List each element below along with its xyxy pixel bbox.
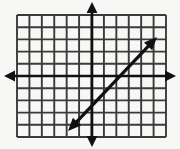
graph-figure [0,0,180,149]
coordinate-plane [0,0,180,149]
